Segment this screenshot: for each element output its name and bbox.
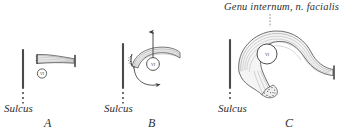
panel-a-sulcus-label: Sulcus — [4, 103, 33, 114]
panel-b-letter: B — [148, 117, 155, 129]
panel-b-sulcus-label: Sulcus — [104, 103, 133, 114]
panel-a: VI — [23, 50, 75, 104]
panel-c-nucleus-label: VI — [265, 52, 270, 57]
panel-b-nucleus-label: VI — [151, 62, 156, 67]
panel-c-sulcus-label: Sulcus — [218, 103, 247, 114]
panel-b: VI — [123, 32, 180, 104]
panel-c-letter: C — [285, 117, 293, 129]
panel-a-nerve-bundle — [36, 54, 75, 66]
panel-a-abducens-nucleus: VI — [37, 69, 46, 78]
panel-c: VI — [230, 14, 334, 99]
panel-c-genu-bundle — [239, 31, 334, 95]
caption-genu-internum: Genu internum, n. facialis — [224, 2, 339, 13]
panel-c-abducens-nucleus: VI — [257, 44, 277, 64]
panel-b-abducens-nucleus: VI — [147, 58, 160, 71]
panel-a-letter: A — [44, 117, 51, 129]
panel-a-nucleus-label: VI — [40, 71, 45, 76]
facial-nerve-genu-plate: VI — [0, 0, 350, 131]
